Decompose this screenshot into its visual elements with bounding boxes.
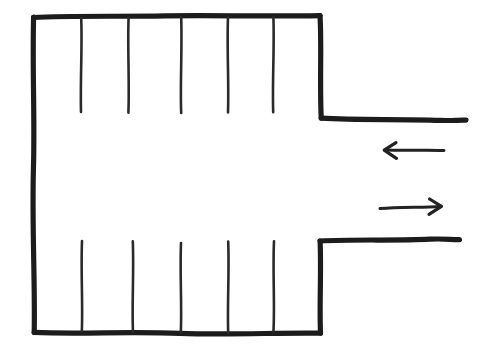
bottom-fin-3 — [181, 243, 182, 332]
bottom-fin-1 — [82, 241, 83, 332]
top-fin-5 — [273, 17, 274, 112]
bottom-fin-4 — [228, 242, 229, 333]
left-wall — [33, 17, 34, 332]
right-wall-upper — [320, 16, 321, 118]
top-wall — [34, 16, 321, 18]
flow-arrow-outlet-right — [380, 199, 441, 214]
diagram-canvas — [0, 0, 486, 363]
bottom-wall — [34, 332, 320, 334]
top-fin-4 — [228, 17, 229, 112]
lower-duct-lip — [320, 239, 459, 241]
hand-drawn-diagram — [0, 0, 486, 363]
top-fin-2 — [128, 18, 129, 113]
bottom-fin-group — [82, 241, 274, 333]
bottom-fin-2 — [133, 241, 134, 332]
top-fin-1 — [81, 18, 82, 112]
arrow-shaft-right — [380, 206, 441, 208]
chamber-outline-group — [33, 16, 466, 334]
top-fin-group — [81, 17, 274, 113]
top-fin-3 — [181, 17, 182, 113]
bottom-fin-5 — [273, 241, 274, 332]
upper-duct-lip — [321, 118, 466, 120]
flow-arrow-inlet-left — [384, 143, 444, 159]
